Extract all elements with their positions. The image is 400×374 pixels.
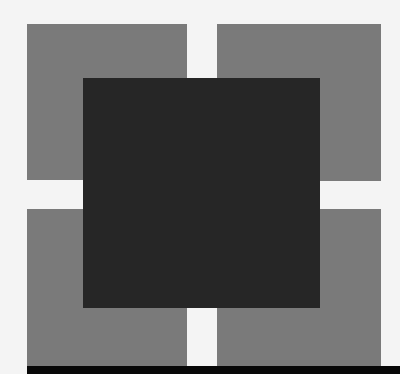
bottom-bar (27, 366, 400, 374)
center-square (83, 78, 320, 308)
